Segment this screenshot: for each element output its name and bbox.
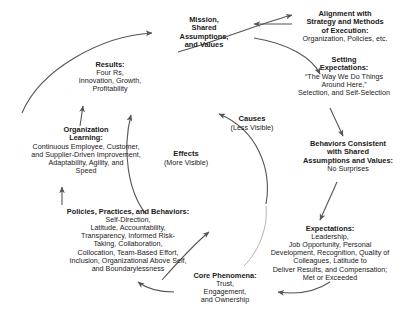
label-causes: Causes (Less Visible)	[216, 115, 288, 132]
node-setting-body-3: Selection, and Self-Selection	[280, 89, 408, 97]
arrow-orglearning-to-results	[80, 106, 83, 126]
node-mission: Mission, Shared Assumptions, and Values	[158, 16, 250, 49]
label-effects-body: (More Visible)	[150, 159, 222, 167]
node-alignment: Alignment with Strategy and Methods of E…	[283, 10, 407, 43]
node-policies-practices-behaviors: Policies, Practices, and Behaviors: Self…	[44, 208, 212, 273]
causal-loop-diagram: Mission, Shared Assumptions, and Values …	[0, 0, 410, 320]
node-behaviors-body: No Surprises	[292, 165, 404, 173]
node-expectations: Expectations: Leadership, Job Opportunit…	[252, 225, 408, 282]
arrow-behaviors-to-expectations	[320, 182, 337, 220]
node-core-body-3: and Ownership	[176, 296, 274, 304]
node-organization-learning: Organization Learning: Continuous Employ…	[2, 126, 170, 175]
arrow-setting-to-behaviors	[330, 108, 343, 136]
node-results-body-3: Profitability	[56, 85, 164, 93]
node-orglearning-body-4: Speed	[2, 167, 170, 175]
node-setting-expectations: Setting Expectations: “The Way We Do Thi…	[280, 56, 408, 97]
arrow-expectations-to-core	[278, 282, 330, 293]
node-expectations-body-6: Met or Exceeded	[252, 274, 408, 282]
node-core-phenomena: Core Phenomena: Trust, Engagement, and O…	[176, 272, 274, 304]
arrow-core-to-policies	[138, 282, 174, 292]
label-effects: Effects (More Visible)	[150, 150, 222, 167]
node-alignment-body: Organization, Policies, etc.	[283, 35, 407, 43]
node-results: Results: Four Rs, Innovation, Growth, Pr…	[56, 61, 164, 93]
node-policies-body-7: and Boundarylessness	[44, 265, 212, 273]
node-mission-line-4: and Values	[158, 41, 250, 49]
label-causes-body: (Less Visible)	[216, 124, 288, 132]
node-behaviors-consistent: Behaviors Consistent with Shared Assumpt…	[292, 140, 404, 173]
